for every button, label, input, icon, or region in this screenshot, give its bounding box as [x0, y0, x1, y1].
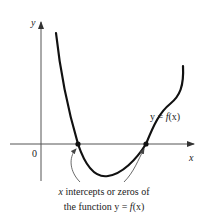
caption-line-1: x intercepts or zeros of — [57, 186, 150, 197]
caption-line-2: the function y = f(x) — [64, 201, 145, 213]
curve-label: y = f(x) — [150, 111, 180, 123]
x-intercept-point-1 — [75, 141, 80, 146]
y-axis-label: y — [30, 17, 36, 28]
x-axis-label: x — [188, 152, 194, 163]
function-curve — [56, 33, 183, 176]
origin-label: 0 — [32, 148, 37, 159]
function-graph-diagram: y x 0 y = f(x) x intercepts or zeros of … — [0, 0, 206, 222]
pointer-arrow-1 — [71, 149, 80, 182]
x-intercept-point-2 — [143, 141, 148, 146]
